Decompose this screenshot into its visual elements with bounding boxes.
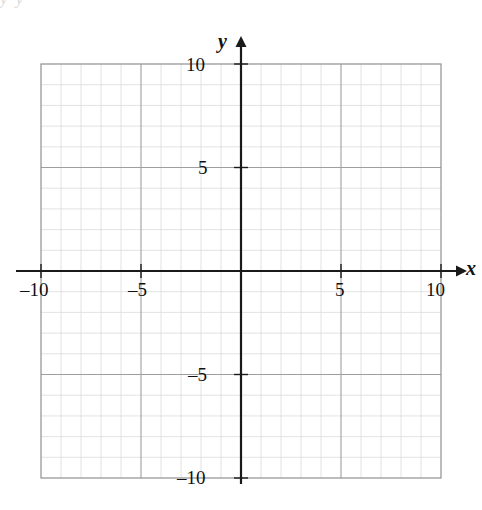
y-tick-label-10: 10 <box>186 55 205 74</box>
x-axis-label: x <box>466 258 476 278</box>
coordinate-grid-figure: y y <box>0 0 482 510</box>
grid-canvas <box>0 0 482 510</box>
y-axis-label: y <box>218 31 227 51</box>
x-tick-label-neg10: –10 <box>20 280 49 299</box>
x-tick-label-10: 10 <box>426 280 445 299</box>
y-tick-label-5: 5 <box>198 158 208 177</box>
y-axis-arrowhead <box>236 36 247 47</box>
x-tick-label-5: 5 <box>335 280 345 299</box>
y-tick-label-neg10: –10 <box>177 468 206 487</box>
x-tick-label-neg5: –5 <box>128 280 147 299</box>
y-tick-label-neg5: –5 <box>188 365 207 384</box>
